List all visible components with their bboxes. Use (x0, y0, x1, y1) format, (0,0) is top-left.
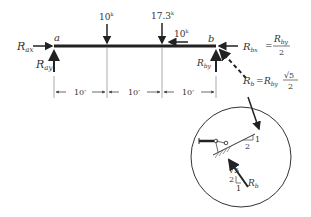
rb-resultant-dashed (220, 50, 246, 78)
svg-text:Rbx: Rbx (242, 41, 258, 53)
svg-text:√5: √5 (284, 71, 294, 80)
detail-pin-roller (224, 141, 228, 145)
slope-force-rise: 2 (229, 175, 234, 184)
slope-force-hyp: √5 (229, 166, 239, 175)
rax-label: Rax (16, 40, 33, 54)
load-10k-horizontal-label: 10k (174, 28, 189, 39)
beam-diagram: Rax Ray a 10k 17.3k 10k b Rby Rbx = Rby … (0, 0, 311, 217)
svg-text:Rby: Rby (263, 76, 279, 88)
svg-text:2: 2 (288, 82, 293, 91)
rbx-equation: Rbx = Rby 2 (242, 34, 290, 57)
slope-top-run: 2 (245, 142, 250, 151)
span-label-2: 10′ (128, 88, 140, 97)
span-label-1: 10′ (74, 88, 86, 97)
detail-pointer-arrow (248, 97, 259, 129)
rby-label: Rby (196, 58, 212, 70)
slope-force-run: 1 (236, 184, 241, 193)
svg-text:Rby: Rby (273, 34, 289, 46)
point-b-label: b (208, 33, 214, 44)
point-a-label: a (54, 32, 60, 43)
svg-text:=: = (265, 41, 273, 51)
detail-support-leg (216, 143, 218, 152)
svg-text:2: 2 (279, 48, 284, 57)
load-10k-label: 10k (99, 11, 114, 22)
rb-equation: Rb = Rby √5 2 (242, 71, 298, 91)
ray-label: Ray (35, 58, 53, 72)
detail-rb-label: Rb (247, 178, 259, 189)
span-label-3: 10′ (182, 88, 194, 97)
slope-top-rise: 1 (255, 135, 260, 144)
svg-text:Rb: Rb (242, 75, 255, 87)
load-17k-label: 17.3k (151, 10, 175, 21)
svg-text:=: = (256, 76, 264, 86)
